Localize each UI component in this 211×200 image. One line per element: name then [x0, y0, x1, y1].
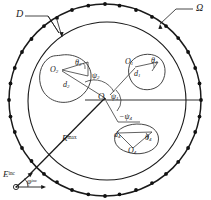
diagram-canvas — [0, 0, 211, 200]
label-o1-sub: 1 — [131, 61, 133, 66]
label-theta4: θ4 — [145, 134, 151, 143]
label-psi1-sub: 1 — [116, 96, 118, 101]
label-r-max: Rmax — [62, 134, 77, 143]
label-o2: O2 — [50, 66, 58, 75]
label-theta2: θ2 — [75, 59, 81, 68]
label-o1: O1 — [125, 58, 133, 67]
scatterer-4-boundary — [115, 124, 159, 154]
label-d1-sub: 1 — [138, 73, 140, 78]
label-domain-d: D — [16, 9, 23, 19]
investigation-domain-circle — [28, 22, 186, 180]
scattering-geometry-figure: Ω D Rmax O O1 d1 θ1 ψ1 O2 d2 θ2 ψ2 O4 d4… — [0, 0, 211, 200]
label-r-max-exponent: max — [68, 134, 77, 140]
leader-lines — [25, 9, 193, 37]
label-psi1: ψ1 — [111, 93, 118, 102]
leader-arrowheads — [59, 24, 162, 37]
label-psi2: ψ2 — [92, 72, 99, 81]
label-d2-sub: 2 — [67, 84, 69, 89]
label-o4: O4 — [128, 147, 136, 156]
label-theta1: θ1 — [151, 57, 157, 66]
label-phi-inc: φinc — [27, 178, 37, 186]
label-o2-sub: 2 — [56, 69, 58, 74]
label-psi4-base: −ψ — [119, 112, 129, 121]
label-d4: d4 — [114, 131, 120, 140]
label-origin: O — [98, 92, 105, 101]
label-o4-sub: 4 — [134, 150, 136, 155]
scatterer-2-boundary — [40, 55, 91, 103]
label-psi2-sub: 2 — [97, 75, 99, 80]
label-d2: d2 — [63, 81, 69, 90]
label-theta1-sub: 1 — [155, 60, 157, 65]
label-omega: Ω — [196, 3, 203, 13]
label-psi4-sub: 4 — [129, 116, 131, 121]
label-psi4: −ψ4 — [119, 113, 132, 122]
label-phi-inc-exponent: inc — [31, 178, 37, 183]
label-d1: d1 — [134, 70, 140, 79]
label-theta4-sub: 4 — [149, 137, 151, 142]
label-d4-sub: 4 — [118, 134, 120, 139]
label-e-inc-exponent: inc — [9, 170, 15, 176]
label-e-inc: Einc — [3, 170, 15, 179]
label-theta2-sub: 2 — [79, 62, 81, 67]
